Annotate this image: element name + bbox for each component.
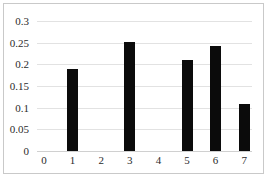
bar-1 (67, 69, 78, 151)
y-tick-label: 0.25 (0, 37, 29, 48)
x-tick-label: 5 (176, 155, 198, 166)
y-tick-label: 0.05 (0, 124, 29, 135)
x-tick-label: 7 (233, 155, 255, 166)
bar-6 (210, 46, 221, 151)
x-tick-label: 2 (90, 155, 112, 166)
gridline-0.25 (37, 43, 252, 44)
x-tick-label: 4 (147, 155, 169, 166)
x-tick-label: 0 (33, 155, 55, 166)
x-tick-label: 1 (62, 155, 84, 166)
y-tick-label: 0.15 (0, 81, 29, 92)
y-tick-label: 0.3 (0, 16, 29, 27)
bar-5 (182, 60, 193, 151)
y-tick-label: 0.1 (0, 102, 29, 113)
gridline-0.3 (37, 21, 252, 22)
y-tick-label: 0.2 (0, 59, 29, 70)
x-tick-label: 3 (119, 155, 141, 166)
chart-frame: 00.050.10.150.20.250.3 01234567 (3, 3, 264, 174)
y-tick-label: 0 (0, 146, 29, 157)
plot-area: 00.050.10.150.20.250.3 01234567 (4, 4, 263, 173)
bar-3 (124, 42, 135, 151)
x-tick-label: 6 (205, 155, 227, 166)
gridline-0 (37, 151, 252, 152)
bar-7 (239, 104, 250, 151)
